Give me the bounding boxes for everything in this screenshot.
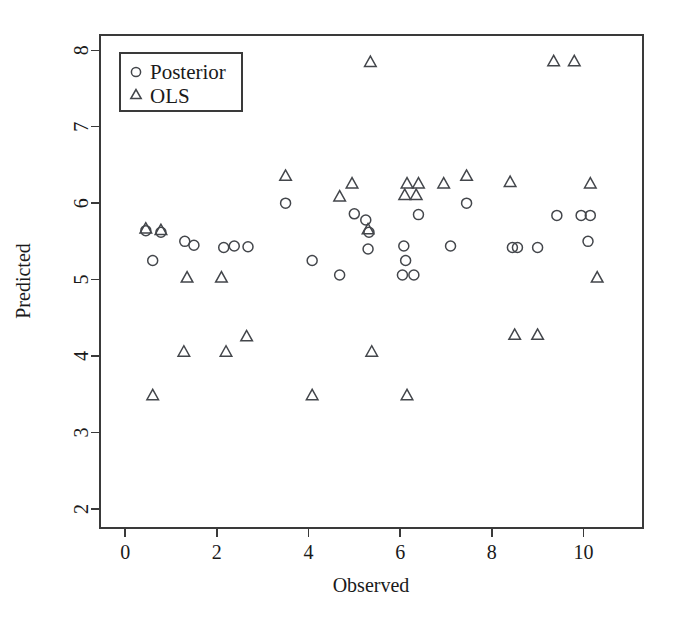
x-axis-ticks: 0246810 — [120, 528, 593, 563]
y-tick-label: 4 — [70, 351, 92, 361]
legend-label-posterior: Posterior — [150, 60, 226, 84]
x-tick-label: 0 — [120, 541, 130, 563]
y-axis-ticks: 2345678 — [70, 45, 100, 514]
plot-canvas: 0246810 2345678 Observed Predicted Poste… — [0, 0, 677, 620]
y-tick-label: 3 — [70, 427, 92, 437]
data-point-posterior — [148, 255, 158, 265]
x-tick-label: 10 — [573, 541, 593, 563]
data-point-posterior — [409, 270, 419, 280]
data-point-ols — [365, 56, 377, 66]
data-point-posterior — [156, 227, 166, 237]
data-point-ols — [504, 176, 516, 186]
y-tick-label: 7 — [70, 122, 92, 132]
data-point-ols — [410, 189, 422, 199]
data-point-ols — [401, 389, 413, 399]
data-point-posterior — [462, 198, 472, 208]
data-point-posterior — [281, 198, 291, 208]
data-point-ols — [280, 170, 292, 180]
data-point-ols — [220, 346, 232, 356]
data-point-ols — [568, 55, 580, 65]
data-point-posterior — [446, 241, 456, 251]
data-point-posterior — [229, 241, 239, 251]
posterior-marker-group — [141, 198, 595, 280]
data-point-posterior — [141, 226, 151, 236]
data-point-posterior — [361, 215, 371, 225]
data-point-ols — [548, 55, 560, 65]
legend: Posterior OLS — [120, 53, 242, 111]
data-point-ols — [178, 346, 190, 356]
y-tick-label: 8 — [70, 45, 92, 55]
y-tick-label: 2 — [70, 504, 92, 514]
data-point-ols — [147, 389, 159, 399]
data-point-posterior — [583, 236, 593, 246]
data-point-ols — [461, 170, 473, 180]
data-point-posterior — [552, 210, 562, 220]
data-point-posterior — [399, 241, 409, 251]
data-point-ols — [401, 178, 413, 188]
data-point-ols — [216, 272, 228, 282]
data-point-posterior — [533, 242, 543, 252]
x-tick-label: 8 — [487, 541, 497, 563]
x-tick-label: 6 — [395, 541, 405, 563]
data-point-ols — [346, 178, 358, 188]
data-point-ols — [366, 346, 378, 356]
data-point-posterior — [219, 242, 229, 252]
data-point-ols — [532, 329, 544, 339]
data-point-posterior — [363, 244, 373, 254]
data-point-ols — [438, 178, 450, 188]
y-tick-label: 5 — [70, 275, 92, 285]
data-point-posterior — [335, 270, 345, 280]
scatter-plot-figure: 0246810 2345678 Observed Predicted Poste… — [0, 0, 677, 620]
data-point-posterior — [397, 270, 407, 280]
data-point-posterior — [349, 209, 359, 219]
x-axis-title: Observed — [333, 574, 410, 596]
data-point-ols — [241, 330, 253, 340]
legend-label-ols: OLS — [150, 84, 190, 108]
data-point-posterior — [189, 240, 199, 250]
data-point-ols — [306, 389, 318, 399]
data-point-ols — [181, 272, 193, 282]
y-tick-label: 6 — [70, 198, 92, 208]
data-point-posterior — [413, 210, 423, 220]
data-point-ols — [399, 189, 411, 199]
data-point-posterior — [307, 255, 317, 265]
data-point-ols — [585, 178, 597, 188]
data-point-posterior — [401, 255, 411, 265]
data-point-ols — [509, 329, 521, 339]
x-tick-label: 4 — [303, 541, 313, 563]
data-point-ols — [591, 272, 603, 282]
x-tick-label: 2 — [212, 541, 222, 563]
data-point-ols — [334, 191, 346, 201]
y-axis-title: Predicted — [12, 243, 34, 319]
data-point-posterior — [243, 242, 253, 252]
data-point-ols — [413, 178, 425, 188]
